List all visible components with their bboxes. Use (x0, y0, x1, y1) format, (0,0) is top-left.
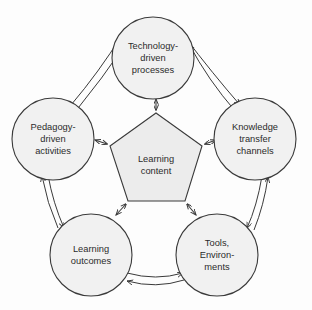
cycle-diagram: Technology- driven processes Knowledge t… (0, 0, 312, 310)
node-circle-outcomes[interactable] (50, 214, 132, 296)
node-label-outcomes-line-2: outcomes (71, 256, 112, 266)
ring-arc-tools-to-outcomes (127, 280, 184, 285)
node-knowledge-transfer-channels[interactable]: Knowledge transfer channels (214, 98, 296, 180)
node-label-pedagogy-line-1: Pedagogy- (31, 122, 76, 132)
node-label-knowledge-line-2: transfer (239, 134, 271, 144)
node-label-tools-line-3: ments (204, 262, 230, 272)
node-pedagogy-driven-activities[interactable]: Pedagogy- driven activities (12, 98, 94, 180)
diagram-canvas: Technology- driven processes Knowledge t… (0, 0, 312, 310)
node-label-tools-line-2: Environ- (200, 250, 235, 260)
node-label-pedagogy-line-3: activities (35, 146, 71, 156)
ring-knowledge-tools (247, 176, 268, 230)
node-label-technology-line-1: Technology- (128, 41, 178, 51)
node-label-pedagogy-line-2: driven (40, 134, 65, 144)
node-learning-outcomes[interactable]: Learning outcomes (50, 214, 132, 296)
ring-tools-outcomes (127, 273, 184, 285)
spoke-center-to-tools (187, 204, 196, 215)
node-tools-environments[interactable]: Tools, Environ- ments (176, 214, 258, 296)
node-label-technology-line-2: driven (140, 53, 165, 63)
node-label-knowledge-line-1: Knowledge (232, 122, 278, 132)
node-label-knowledge-line-3: channels (236, 146, 274, 156)
node-technology-driven-processes[interactable]: Technology- driven processes (112, 17, 194, 99)
ring-arc-pedagogy-to-outcomes (48, 175, 64, 228)
node-label-outcomes-line-1: Learning (73, 244, 109, 254)
spoke-center-to-pedagogy (95, 140, 107, 144)
ring-arc-knowledge-to-technology (189, 44, 236, 112)
node-label-tools-line-1: Tools, (205, 238, 229, 248)
center-label-line-2: content (141, 166, 172, 176)
spoke-center-to-outcomes (116, 204, 126, 215)
ring-arc-outcomes-to-tools (127, 273, 183, 277)
ring-arc-knowledge-to-tools (247, 176, 262, 228)
ring-outcomes-pedagogy (42, 175, 64, 228)
node-label-technology-line-3: processes (132, 65, 175, 75)
center-label-line-1: Learning (138, 154, 174, 164)
